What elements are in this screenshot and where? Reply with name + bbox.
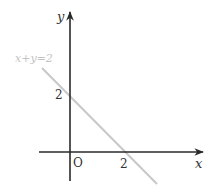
x-intercept-label: 2 bbox=[120, 157, 128, 171]
y-intercept-label: 2 bbox=[55, 88, 63, 102]
graph-line bbox=[42, 68, 157, 184]
origin-label: O bbox=[73, 156, 83, 170]
coordinate-plane: y x O 2 2 x+y=2 bbox=[0, 0, 214, 194]
x-axis-label: x bbox=[195, 156, 203, 171]
y-axis-label: y bbox=[56, 9, 65, 24]
equation-label: x+y=2 bbox=[15, 52, 53, 65]
